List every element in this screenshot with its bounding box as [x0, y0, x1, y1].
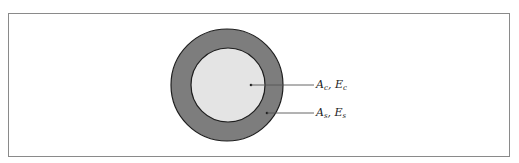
core-area-symbol: A: [316, 78, 324, 91]
core-modulus-symbol: E: [335, 78, 343, 91]
core-separator: ,: [328, 78, 335, 91]
cross-section-figure: [0, 0, 519, 163]
shell-modulus-subscript: s: [343, 112, 347, 120]
shell-area-symbol: A: [316, 106, 324, 119]
shell-separator: ,: [328, 106, 335, 119]
core-label: Ac, Ec: [316, 79, 347, 92]
shell-modulus-symbol: E: [335, 106, 343, 119]
core-modulus-subscript: c: [343, 84, 347, 92]
shell-label: As, Es: [316, 107, 346, 120]
